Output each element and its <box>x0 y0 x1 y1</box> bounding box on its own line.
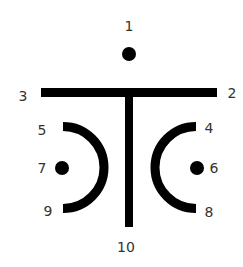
right-arc <box>155 127 196 209</box>
label-8: 8 <box>205 204 214 220</box>
label-3: 3 <box>19 88 28 104</box>
label-5: 5 <box>38 122 47 138</box>
symbol-diagram: 1 2 3 4 5 6 7 8 9 10 <box>0 0 243 267</box>
label-2: 2 <box>228 85 237 101</box>
label-7: 7 <box>38 160 47 176</box>
top-dot <box>122 47 136 61</box>
label-4: 4 <box>205 120 214 136</box>
left-arc <box>63 127 104 209</box>
right-inner-dot <box>190 161 204 175</box>
label-10: 10 <box>117 239 135 255</box>
label-6: 6 <box>210 160 219 176</box>
vertical-stem <box>125 96 133 227</box>
left-inner-dot <box>55 161 69 175</box>
horizontal-bar <box>41 88 217 97</box>
label-9: 9 <box>44 203 53 219</box>
label-1: 1 <box>125 18 134 34</box>
